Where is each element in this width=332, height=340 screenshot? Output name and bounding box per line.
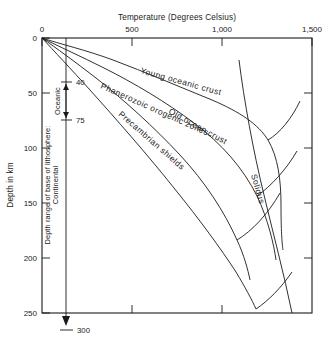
y-tick-label-100: 100 <box>24 144 38 153</box>
y-tick-label-50: 50 <box>28 89 37 98</box>
oceanic-bracket-label: Oceanic <box>53 87 62 115</box>
x-axis-ticks-bottom <box>132 305 222 313</box>
curve-solidus <box>239 60 292 313</box>
curve-label-young-oceanic-crust: Young oceanic crust <box>139 65 223 97</box>
oceanic-top-value: 40 <box>76 78 85 87</box>
y-tick-label-0: 0 <box>33 34 38 43</box>
arrow-head-continental <box>62 316 70 326</box>
curve-label-solidus: Solidus <box>249 173 267 205</box>
curve-label-old-ocean-crust: Old ocean crust <box>167 106 229 147</box>
geotherm-chart-svg: Temperature (Degrees Celsius) 0 500 1,00… <box>0 0 332 340</box>
x-axis-title: Temperature (Degrees Celsius) <box>118 13 236 22</box>
y-axis-title: Depth in km <box>6 162 15 207</box>
x-axis-ticks-top <box>42 38 312 46</box>
oceanic-bottom-value: 75 <box>76 116 85 125</box>
x-tick-label-1000: 1,000 <box>212 25 233 34</box>
curve-precambrian-shields <box>42 38 256 309</box>
chart-figure: Temperature (Degrees Celsius) 0 500 1,00… <box>0 0 332 340</box>
oceanic-depth-bracket <box>61 82 72 120</box>
y-axis-ticks-right <box>304 93 312 258</box>
curve-young-oceanic-crust-tail <box>268 101 300 140</box>
curve-precambrian-tail <box>256 272 292 309</box>
continental-bracket-label-line2: Continental <box>51 166 60 205</box>
y-tick-label-250: 250 <box>24 309 38 318</box>
x-tick-label-500: 500 <box>125 25 139 34</box>
continental-bottom-value: 300 <box>77 326 91 335</box>
x-tick-label-1500: 1,500 <box>302 25 323 34</box>
y-tick-label-200: 200 <box>24 254 38 263</box>
x-tick-label-0: 0 <box>40 25 45 34</box>
y-tick-label-150: 150 <box>24 199 38 208</box>
